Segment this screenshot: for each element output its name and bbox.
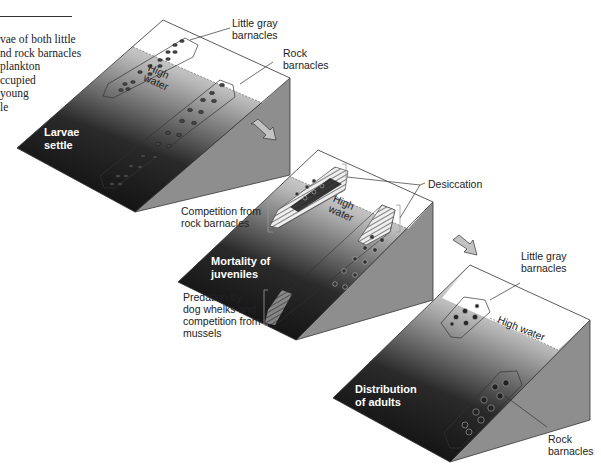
label-little-gray-barnacles-1: Little gray barnacles — [232, 17, 278, 41]
label-little-gray-barnacles-3: Little gray barnacles — [521, 250, 567, 274]
label-competition-rock-barnacles: Competition from rock barnacles — [181, 205, 261, 229]
label-rock-barnacles-3: Rock barnacles — [548, 433, 594, 457]
stage-label-larvae-settle: Larvae settle — [44, 126, 79, 152]
stage-label-mortality-juveniles: Mortality of juveniles — [211, 255, 270, 281]
label-rock-barnacles-1: Rock barnacles — [283, 47, 329, 71]
label-desiccation: Desiccation — [428, 178, 482, 190]
arrow-icon — [453, 235, 477, 255]
block-larvae-settle — [17, 20, 290, 212]
label-predation-dog-whelks: Predation by dog whelks and competition … — [183, 291, 261, 339]
stage-label-distribution-adults: Distribution of adults — [355, 383, 417, 409]
leader-little-gray-1 — [190, 28, 230, 40]
